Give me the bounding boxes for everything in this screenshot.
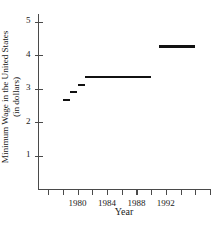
wage-segment-3.35 xyxy=(85,76,151,78)
x-tick-1984 xyxy=(107,189,108,195)
x-tick-1990 xyxy=(151,189,152,195)
wage-segment-2.90 xyxy=(70,91,77,93)
x-tick-1992 xyxy=(166,189,167,195)
y-tick-1: 1 xyxy=(35,156,43,157)
y-axis-title: Minimum Wage in the United States (in do… xyxy=(0,0,34,190)
x-tick-1978 xyxy=(63,189,64,195)
y-tick-2: 2 xyxy=(35,122,43,123)
minimum-wage-chart: Minimum Wage in the United States (in do… xyxy=(0,0,223,225)
wage-segment-3.10 xyxy=(78,84,85,86)
wage-segment-2.65 xyxy=(63,99,70,101)
y-tick-4: 4 xyxy=(35,55,43,56)
y-tick-label-1: 1 xyxy=(26,149,31,159)
x-axis-title: Year xyxy=(38,206,210,217)
wage-segment-4.25 xyxy=(159,45,196,47)
y-tick-3: 3 xyxy=(35,89,43,90)
x-tick-1980 xyxy=(78,189,79,195)
x-tick-1986 xyxy=(122,189,123,195)
y-tick-5: 5 xyxy=(35,22,43,23)
y-tick-label-2: 2 xyxy=(26,116,31,126)
x-tick-1998 xyxy=(210,189,211,195)
x-tick-1976 xyxy=(48,189,49,195)
x-tick-1988 xyxy=(136,189,137,195)
plot-area: 12345 1980198419881992 xyxy=(38,14,210,190)
y-tick-label-3: 3 xyxy=(26,82,31,92)
y-tick-label-5: 5 xyxy=(26,15,31,25)
x-tick-1996 xyxy=(195,189,196,195)
x-tick-1982 xyxy=(92,189,93,195)
y-axis-line xyxy=(38,14,39,190)
y-axis-title-line1: Minimum Wage in the United States xyxy=(0,2,11,192)
x-tick-1994 xyxy=(181,189,182,195)
y-tick-label-4: 4 xyxy=(26,49,31,59)
y-axis-title-line2: (in dollars) xyxy=(11,2,22,192)
